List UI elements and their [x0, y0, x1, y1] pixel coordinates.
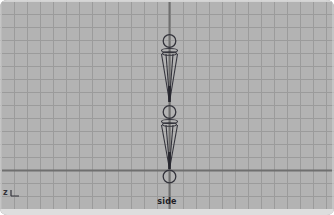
- viewport-side-panel[interactable]: z side: [0, 0, 334, 215]
- axis-arrows-icon: [9, 188, 21, 198]
- viewport-border-top: [0, 0, 334, 2]
- viewport-border-left: [0, 0, 2, 215]
- scene-canvas[interactable]: [0, 0, 334, 215]
- axis-letter-z: z: [3, 188, 8, 198]
- axis-gizmo-icon: z: [3, 186, 25, 198]
- viewport-border-bottom: [0, 209, 334, 215]
